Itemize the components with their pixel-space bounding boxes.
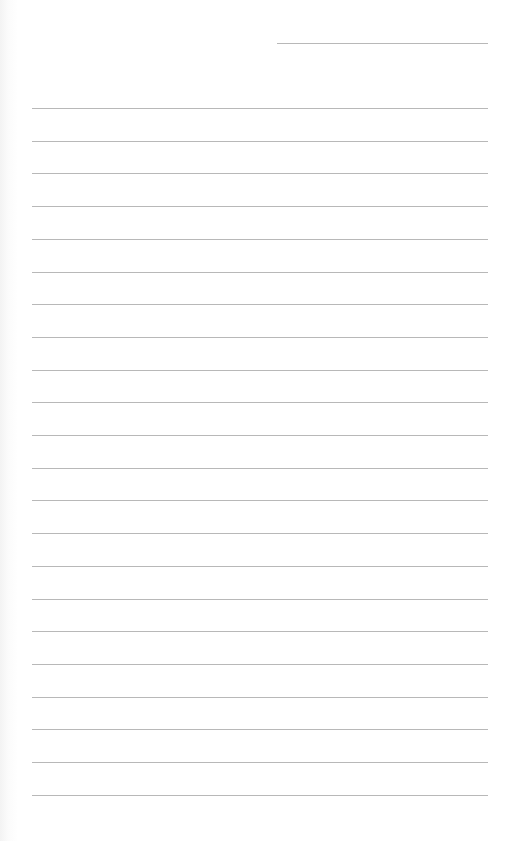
ruled-line: [32, 795, 488, 796]
ruled-line: [32, 664, 488, 665]
ruled-line: [32, 500, 488, 501]
lined-paper-page: [0, 0, 514, 841]
ruled-line: [32, 337, 488, 338]
ruled-line: [32, 566, 488, 567]
ruled-line: [32, 141, 488, 142]
ruled-line: [32, 697, 488, 698]
ruled-line: [32, 402, 488, 403]
ruled-line: [32, 206, 488, 207]
ruled-line: [32, 599, 488, 600]
ruled-line: [32, 729, 488, 730]
ruled-line: [32, 533, 488, 534]
ruled-line: [32, 468, 488, 469]
ruled-line: [32, 370, 488, 371]
ruled-line: [32, 108, 488, 109]
ruled-line: [32, 304, 488, 305]
ruled-line: [32, 239, 488, 240]
ruled-line: [32, 173, 488, 174]
ruled-line: [32, 631, 488, 632]
ruled-lines: [32, 0, 488, 841]
ruled-line: [32, 272, 488, 273]
ruled-line: [32, 435, 488, 436]
ruled-line: [32, 762, 488, 763]
